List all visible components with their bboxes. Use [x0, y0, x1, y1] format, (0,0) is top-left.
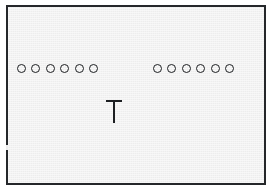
- circle-icon: [211, 64, 220, 73]
- circle-group-right: [153, 64, 234, 73]
- circle-icon: [17, 64, 26, 73]
- circle-group-left: [17, 64, 98, 73]
- t-probe-stem: [113, 102, 115, 123]
- circle-icon: [153, 64, 162, 73]
- circle-icon: [89, 64, 98, 73]
- figure-frame: [6, 5, 266, 185]
- t-probe-icon: [106, 100, 122, 123]
- circle-icon: [60, 64, 69, 73]
- circle-icon: [75, 64, 84, 73]
- circle-icon: [46, 64, 55, 73]
- circle-icon: [225, 64, 234, 73]
- circle-icon: [31, 64, 40, 73]
- frame-rule-break: [6, 145, 8, 150]
- circle-icon: [182, 64, 191, 73]
- circle-icon: [167, 64, 176, 73]
- circle-icon: [196, 64, 205, 73]
- figure-root: [0, 0, 273, 191]
